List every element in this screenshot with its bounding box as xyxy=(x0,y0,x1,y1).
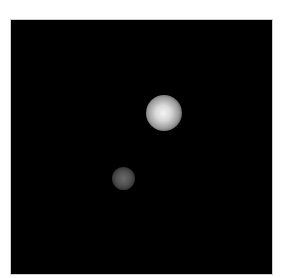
image-frame xyxy=(10,19,273,275)
dim-spot xyxy=(112,167,135,190)
bright-spot xyxy=(146,95,182,131)
